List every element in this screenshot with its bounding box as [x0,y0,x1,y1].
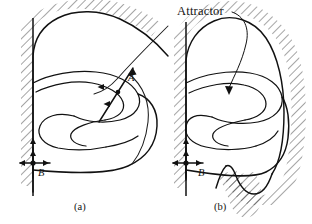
panel-a-crossing-point-B [30,160,35,165]
point-a-label: A [128,73,134,84]
panel-b-crossing-point-B [183,160,188,165]
figure-container: Attractor A B B (a) (b) [0,0,312,224]
caption-panel-a: (a) [74,202,86,213]
diagram-canvas [0,0,312,224]
caption-panel-b: (b) [214,202,226,213]
point-b-label-panel-b: B [198,168,204,179]
attractor-label: Attractor [177,5,224,18]
point-b-label-panel-a: B [38,168,44,179]
panel-a-crossing-point-A [116,90,121,95]
